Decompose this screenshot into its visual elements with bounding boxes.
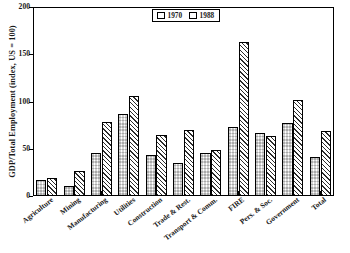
x-axis-label: FIRE (227, 196, 245, 213)
bar-group (173, 7, 194, 196)
bar-1988-total (321, 131, 331, 196)
x-tick-mark (238, 191, 239, 195)
bar-1988-agriculture (47, 178, 57, 196)
bar-1988-fire (239, 42, 249, 196)
bar-1970-pers-soc (255, 133, 265, 196)
bar-1970-total (310, 157, 320, 196)
bar-group (282, 7, 303, 196)
y-tick-label: 150 (6, 50, 30, 58)
x-tick-mark (156, 191, 157, 195)
bar-1970-agriculture (36, 180, 46, 196)
y-tick-label: 0 (6, 192, 30, 200)
bar-1988-mining (74, 171, 84, 196)
x-axis-label: Total (311, 196, 328, 212)
bar-1970-trade-rest (173, 163, 183, 196)
legend-entry-1988: 1988 (189, 12, 214, 19)
bar-1988-construction (156, 135, 166, 196)
bar-1970-fire (228, 127, 238, 196)
x-tick-mark (129, 191, 130, 195)
bar-1988-utilities (129, 96, 139, 196)
bar-group (91, 7, 112, 196)
bar-1988-transport-comm (211, 150, 221, 196)
bar-1988-manufacturing (102, 122, 112, 196)
bar-1988-government (293, 100, 303, 196)
legend: 19701988 (152, 9, 220, 22)
bar-chart: GDP/Total Employment (index, US = 100) 0… (0, 0, 350, 253)
x-tick-mark (74, 191, 75, 195)
bar-1970-construction (146, 155, 156, 196)
legend-swatch-1970 (157, 12, 165, 19)
bar-1970-government (282, 123, 292, 196)
bar-1970-utilities (118, 114, 128, 196)
bar-1988-trade-rest (184, 130, 194, 196)
legend-label: 1988 (200, 12, 215, 19)
legend-label: 1970 (168, 12, 183, 19)
legend-entry-1970: 1970 (157, 12, 182, 19)
x-tick-mark (293, 191, 294, 195)
y-tick-label: 100 (6, 98, 30, 106)
bar-group (310, 7, 331, 196)
bar-1970-transport-comm (200, 153, 210, 196)
x-axis-label: Mining (59, 196, 82, 216)
bar-group (228, 7, 249, 196)
x-tick-mark (266, 191, 267, 195)
bar-group (36, 7, 57, 196)
bar-1970-manufacturing (91, 153, 101, 196)
legend-swatch-1988 (189, 12, 197, 19)
bar-1970-mining (64, 186, 74, 196)
x-tick-mark (184, 191, 185, 195)
bars-layer (33, 7, 334, 196)
bar-1988-pers-soc (266, 136, 276, 196)
y-tick-label: 50 (6, 145, 30, 153)
bar-group (64, 7, 85, 196)
bar-group (200, 7, 221, 196)
x-axis-label: Agriculture (21, 196, 55, 225)
bar-group (146, 7, 167, 196)
x-tick-mark (211, 191, 212, 195)
bar-group (255, 7, 276, 196)
y-tick-label: 200 (6, 3, 30, 11)
x-tick-mark (47, 191, 48, 195)
bar-group (118, 7, 139, 196)
x-axis-labels: AgricultureMiningManufacturingUtilitiesC… (33, 196, 334, 253)
